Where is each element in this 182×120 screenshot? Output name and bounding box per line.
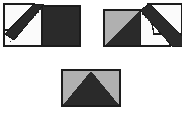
fold-diagram-canvas [0, 0, 182, 120]
right-dark-half [42, 6, 80, 46]
fold-step-one-panel [0, 0, 92, 56]
fold-step-two-panel [92, 0, 182, 56]
fold-step-three-panel [56, 64, 128, 116]
